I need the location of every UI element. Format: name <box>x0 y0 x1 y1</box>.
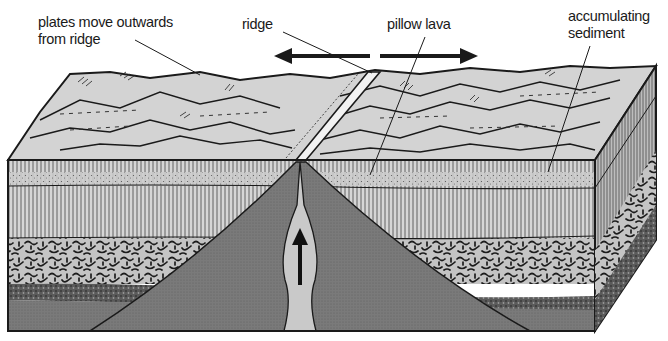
block-diagram-graphic <box>0 0 668 341</box>
label-accumulating-sediment-line1: accumulating <box>568 8 650 24</box>
leader-plates <box>135 40 200 75</box>
label-ridge: ridge <box>242 16 273 32</box>
seafloor-spreading-diagram: plates move outwards from ridge ridge pi… <box>0 0 668 341</box>
label-plates-move-line2: from ridge <box>38 31 100 47</box>
leader-ridge <box>283 32 372 73</box>
plate-motion-right-arrow <box>380 48 478 64</box>
label-accumulating-sediment-line2: sediment <box>568 25 624 41</box>
label-plates-move-line1: plates move outwards <box>38 14 173 30</box>
sea-floor-surface <box>8 66 656 160</box>
label-pillow-lava: pillow lava <box>387 16 451 32</box>
